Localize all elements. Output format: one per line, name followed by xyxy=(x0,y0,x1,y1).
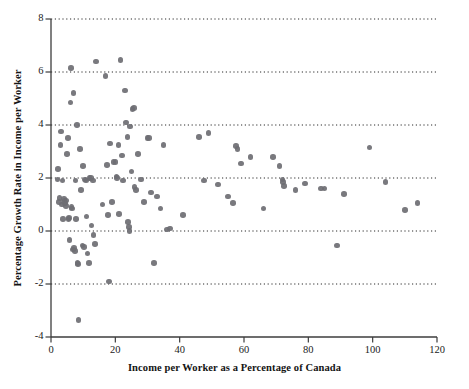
data-point xyxy=(167,226,173,232)
data-point xyxy=(92,241,98,247)
data-point xyxy=(161,142,167,148)
data-point xyxy=(116,142,122,148)
data-point xyxy=(248,154,254,160)
data-point xyxy=(116,211,122,217)
data-point xyxy=(114,175,120,181)
data-point xyxy=(80,163,86,169)
data-point xyxy=(105,212,111,218)
x-tick-label-60: 60 xyxy=(224,344,264,355)
data-point xyxy=(277,163,283,169)
data-point xyxy=(90,178,96,184)
data-point xyxy=(75,261,81,267)
data-point xyxy=(118,57,124,63)
data-point xyxy=(66,215,72,221)
data-point xyxy=(113,159,119,165)
data-point xyxy=(125,134,131,140)
data-point xyxy=(196,134,202,140)
data-point xyxy=(55,166,61,172)
data-point xyxy=(64,151,70,157)
data-point xyxy=(78,187,84,193)
data-point xyxy=(206,130,212,136)
data-point xyxy=(77,146,83,152)
y-tick-label-8: 8 xyxy=(18,12,44,23)
plot-canvas xyxy=(0,0,469,389)
y-tick-label--4: -4 xyxy=(18,330,44,341)
data-point xyxy=(293,187,299,193)
data-point xyxy=(106,279,112,285)
data-point xyxy=(146,135,152,141)
data-point xyxy=(225,194,231,200)
x-tick-label-100: 100 xyxy=(353,344,393,355)
y-tick-label--2: -2 xyxy=(18,277,44,288)
data-point xyxy=(281,183,287,189)
data-point xyxy=(180,212,186,218)
data-point xyxy=(235,146,241,152)
data-point xyxy=(230,200,236,206)
data-point xyxy=(63,203,69,209)
data-point xyxy=(135,151,141,157)
data-point xyxy=(119,153,125,159)
data-point xyxy=(65,135,71,141)
x-tick-label-20: 20 xyxy=(95,344,135,355)
data-point xyxy=(122,88,128,94)
data-point xyxy=(151,260,157,266)
data-point xyxy=(383,179,389,185)
data-point xyxy=(238,161,244,167)
data-point xyxy=(131,105,137,111)
data-point xyxy=(127,228,133,234)
data-point xyxy=(148,190,154,196)
data-point xyxy=(76,317,82,323)
data-point xyxy=(73,216,79,222)
data-point xyxy=(93,59,99,65)
data-point xyxy=(58,142,64,148)
data-point xyxy=(141,199,147,205)
y-tick-label-0: 0 xyxy=(18,224,44,235)
data-point xyxy=(72,248,78,254)
x-axis-label: Income per Worker as a Percentage of Can… xyxy=(0,362,469,373)
data-point xyxy=(127,124,133,130)
data-point xyxy=(302,181,308,187)
x-tick-label-80: 80 xyxy=(288,344,328,355)
data-point xyxy=(270,154,276,160)
y-tick-label-6: 6 xyxy=(18,65,44,76)
data-point xyxy=(109,199,115,205)
scatter-plot-figure: Percentage Growth Rate in Income per Wor… xyxy=(0,0,469,389)
data-point xyxy=(74,122,80,128)
x-tick-label-0: 0 xyxy=(31,344,71,355)
data-point xyxy=(91,232,97,238)
data-point xyxy=(86,260,92,266)
data-point xyxy=(201,178,207,184)
y-tick-label-2: 2 xyxy=(18,171,44,182)
data-point xyxy=(402,207,408,213)
data-point xyxy=(133,187,139,193)
x-tick-label-40: 40 xyxy=(160,344,200,355)
data-point xyxy=(104,162,110,168)
data-point xyxy=(81,244,87,250)
data-point xyxy=(68,65,74,71)
data-point xyxy=(341,191,347,197)
data-point xyxy=(138,177,144,183)
x-tick-label-120: 120 xyxy=(417,344,457,355)
y-tick-label-4: 4 xyxy=(18,118,44,129)
